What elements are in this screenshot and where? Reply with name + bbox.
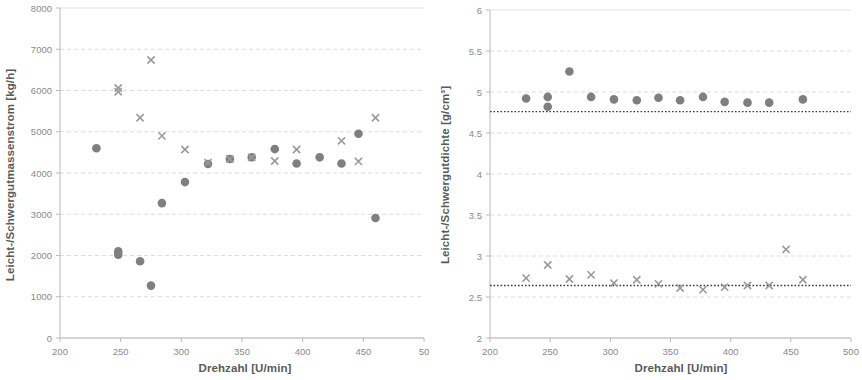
y-tick-label: 5000 <box>31 126 52 137</box>
data-point-cross <box>633 276 640 283</box>
reference-lines-dichte <box>490 112 851 286</box>
data-point-circle <box>743 98 752 107</box>
x-tick-label: 500 <box>843 346 859 357</box>
y-tick-label: 5 <box>477 87 482 98</box>
data-point-circle <box>633 96 642 105</box>
data-point-circle <box>181 178 190 187</box>
x-tick-label: 250 <box>113 346 129 357</box>
data-point-cross <box>271 157 278 164</box>
chart-svg-dichte: 200250300350400450500 22.533.544.555.56 … <box>431 0 862 380</box>
x-tick-label: 350 <box>234 346 250 357</box>
x-tick-label: 400 <box>723 346 739 357</box>
data-point-cross <box>355 158 362 165</box>
data-point-cross <box>799 276 806 283</box>
data-point-circle <box>799 95 808 104</box>
data-point-circle <box>114 250 123 259</box>
y-tick-label: 8000 <box>31 3 52 14</box>
data-point-cross <box>523 275 530 282</box>
y-axis-title-dichte: Leicht-/Schwergutdichte [g/cm³] <box>439 86 451 264</box>
gridlines-dichte <box>490 10 851 338</box>
chart-panel-massenstrom: 20025030035040045050 0100020003000400050… <box>0 0 431 380</box>
data-point-circle <box>270 145 279 154</box>
y-tick-labels-dichte: 22.533.544.555.56 <box>469 5 482 344</box>
data-points-dichte <box>522 67 807 293</box>
y-tick-label: 5.5 <box>469 46 482 57</box>
data-point-circle <box>565 67 574 76</box>
data-point-cross <box>136 114 143 121</box>
data-point-circle <box>315 153 324 162</box>
data-point-circle <box>147 281 156 290</box>
data-point-cross <box>699 286 706 293</box>
data-point-cross <box>544 261 551 268</box>
data-point-cross <box>655 280 662 287</box>
data-point-cross <box>115 88 122 95</box>
data-point-circle <box>92 144 101 153</box>
x-tick-label: 200 <box>482 346 498 357</box>
data-point-circle <box>587 93 596 102</box>
data-point-cross <box>782 246 789 253</box>
y-tick-label: 6000 <box>31 85 52 96</box>
data-point-cross <box>147 56 154 63</box>
data-point-cross <box>566 275 573 282</box>
data-point-circle <box>337 159 346 168</box>
y-tick-label: 2 <box>477 333 482 344</box>
y-tick-labels-massenstrom: 010002000300040005000600070008000 <box>31 3 52 344</box>
x-axis-title-massenstrom: Drehzahl [U/min] <box>199 362 292 374</box>
x-tick-label: 300 <box>602 346 618 357</box>
y-tick-label: 6 <box>477 5 482 16</box>
data-point-cross <box>338 137 345 144</box>
data-point-cross <box>372 114 379 121</box>
data-point-circle <box>522 94 531 103</box>
chart-panel-dichte: 200250300350400450500 22.533.544.555.56 … <box>431 0 862 380</box>
chart-svg-massenstrom: 20025030035040045050 0100020003000400050… <box>0 0 431 380</box>
y-tick-label: 7000 <box>31 44 52 55</box>
gridlines-massenstrom <box>60 8 424 338</box>
x-tick-label: 50 <box>419 346 430 357</box>
y-axis-title-massenstrom: Leicht-/Schwergutmassenstrom [kg/h] <box>4 69 16 282</box>
y-tick-label: 2000 <box>31 250 52 261</box>
data-point-circle <box>204 160 213 169</box>
data-point-cross <box>181 146 188 153</box>
x-tick-label: 300 <box>173 346 189 357</box>
data-point-cross <box>158 132 165 139</box>
y-tick-label: 4.5 <box>469 128 482 139</box>
data-point-circle <box>699 93 708 102</box>
axes-massenstrom <box>56 8 424 342</box>
data-point-circle <box>543 102 552 111</box>
data-point-cross <box>721 284 728 291</box>
data-point-circle <box>720 98 729 107</box>
data-point-circle <box>765 98 774 107</box>
y-tick-label: 3.5 <box>469 210 482 221</box>
data-point-cross <box>293 146 300 153</box>
y-tick-label: 1000 <box>31 291 52 302</box>
data-point-circle <box>354 130 363 139</box>
data-point-circle <box>543 93 552 102</box>
data-point-circle <box>136 257 145 266</box>
x-tick-label: 450 <box>355 346 371 357</box>
axes-dichte <box>486 10 851 342</box>
x-tick-label: 400 <box>295 346 311 357</box>
data-point-circle <box>371 214 380 223</box>
x-axis-title-dichte: Drehzahl [U/min] <box>635 362 728 374</box>
x-tick-label: 250 <box>542 346 558 357</box>
data-point-cross <box>587 271 594 278</box>
x-tick-labels-massenstrom: 20025030035040045050 <box>52 346 429 357</box>
data-point-circle <box>610 95 619 104</box>
y-tick-label: 3 <box>477 251 482 262</box>
y-tick-label: 4000 <box>31 168 52 179</box>
x-tick-labels-dichte: 200250300350400450500 <box>482 346 859 357</box>
x-tick-label: 200 <box>52 346 68 357</box>
y-tick-label: 4 <box>477 169 482 180</box>
y-tick-label: 3000 <box>31 209 52 220</box>
data-point-circle <box>654 93 663 102</box>
x-tick-label: 350 <box>663 346 679 357</box>
data-point-circle <box>158 199 167 208</box>
data-point-circle <box>676 96 685 105</box>
y-tick-label: 2.5 <box>469 292 482 303</box>
data-point-circle <box>292 159 301 168</box>
y-tick-label: 0 <box>47 333 52 344</box>
scatter-plot-figure: 20025030035040045050 0100020003000400050… <box>0 0 862 380</box>
x-tick-label: 450 <box>783 346 799 357</box>
